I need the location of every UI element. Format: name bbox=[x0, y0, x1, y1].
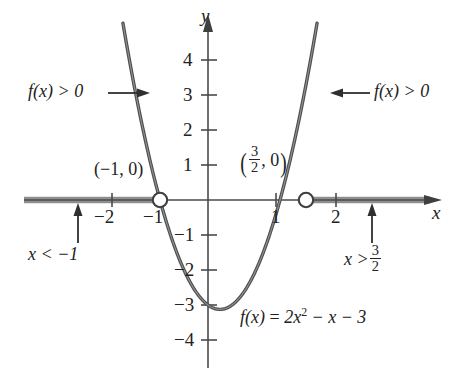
function-equation: f(x) = 2x2 − x − 3 bbox=[240, 308, 366, 326]
right-positive-arrowhead bbox=[330, 89, 343, 98]
equation-lhs: f(x) bbox=[240, 307, 265, 327]
y-tick-label-1: 1 bbox=[183, 155, 193, 174]
equation-equals: = bbox=[269, 307, 279, 327]
figure-container: y x 4 3 2 1 −1 −2 −3 −4 −2 −1 1 2 (−1, 0… bbox=[0, 0, 464, 375]
fraction-numerator: 3 bbox=[249, 144, 260, 160]
x-axis-label: x bbox=[432, 203, 440, 222]
y-tick-label--3: −3 bbox=[174, 295, 194, 314]
right-paren-glyph: ) bbox=[280, 150, 286, 177]
annotation-fraction-numerator: 3 bbox=[370, 243, 381, 259]
equation-exponent: 2 bbox=[301, 305, 307, 319]
annotation-fraction-three-halves: 32 bbox=[370, 243, 381, 274]
intercept-label-left: (−1, 0) bbox=[94, 160, 143, 178]
right-solution-arrowhead bbox=[368, 203, 377, 216]
equation-coefficient: 2x bbox=[284, 307, 301, 327]
annotation-right-positive: f(x) > 0 bbox=[374, 82, 429, 100]
annotation-right-solution: x >32 bbox=[344, 243, 382, 274]
annotation-fraction-denominator: 2 bbox=[370, 259, 381, 274]
intercept-label-right-tail: , 0 bbox=[261, 150, 279, 170]
fraction-three-halves: 32 bbox=[249, 144, 260, 175]
x-tick-label--1: −1 bbox=[143, 207, 163, 226]
x-tick-label-1: 1 bbox=[271, 207, 281, 226]
annotation-right-solution-prefix: x > bbox=[344, 249, 369, 269]
root-marker-right bbox=[299, 193, 313, 207]
y-axis-label: y bbox=[201, 6, 209, 25]
annotation-left-positive: f(x) > 0 bbox=[28, 82, 83, 100]
annotation-left-solution: x < −1 bbox=[28, 245, 78, 263]
y-tick-label-4: 4 bbox=[183, 50, 193, 69]
y-tick-label--1: −1 bbox=[174, 225, 194, 244]
parabola-plot bbox=[0, 0, 464, 375]
fraction-denominator: 2 bbox=[249, 160, 260, 175]
y-tick-label-3: 3 bbox=[183, 85, 193, 104]
left-solution-arrowhead bbox=[74, 203, 83, 216]
x-tick-label--2: −2 bbox=[94, 207, 114, 226]
y-tick-label--2: −2 bbox=[174, 260, 194, 279]
intercept-label-right: (32, 0) bbox=[239, 144, 288, 177]
x-tick-label-2: 2 bbox=[331, 207, 341, 226]
y-tick-label-2: 2 bbox=[183, 120, 193, 139]
y-tick-label--4: −4 bbox=[174, 330, 194, 349]
left-paren-glyph: ( bbox=[240, 150, 246, 177]
equation-remainder: − x − 3 bbox=[312, 307, 367, 327]
left-positive-arrowhead bbox=[137, 89, 150, 98]
